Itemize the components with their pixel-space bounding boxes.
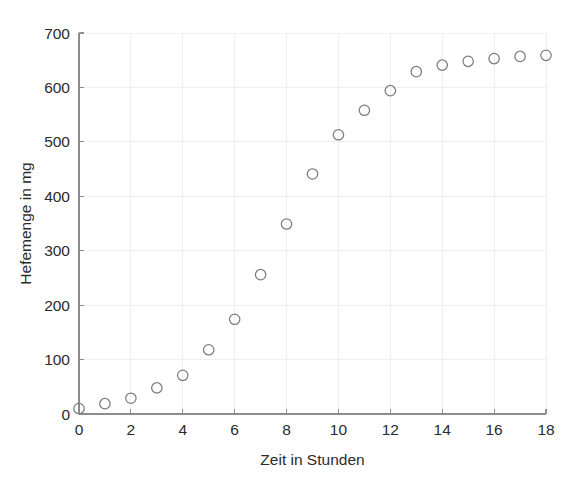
- data-point-marker: [463, 56, 473, 66]
- chart-canvas: 0100200300400500600700024681012141618Zei…: [0, 0, 588, 478]
- x-tick-label: 10: [330, 421, 348, 438]
- data-point-marker: [204, 345, 214, 355]
- y-tick-label: 500: [44, 133, 70, 150]
- data-point-marker: [100, 398, 110, 408]
- y-tick-label: 300: [44, 242, 70, 259]
- x-tick-label: 2: [127, 421, 136, 438]
- data-point-marker: [255, 269, 265, 279]
- y-tick-label: 200: [44, 297, 70, 314]
- y-tick-label: 100: [44, 351, 70, 368]
- yeast-growth-scatter-chart: 0100200300400500600700024681012141618Zei…: [0, 0, 588, 478]
- y-axis-title: Hefemenge in mg: [17, 162, 34, 284]
- data-point-marker: [152, 383, 162, 393]
- x-tick-label: 18: [537, 421, 554, 438]
- data-point-marker: [359, 105, 369, 115]
- data-point-marker: [515, 51, 525, 61]
- x-tick-label: 0: [75, 421, 84, 438]
- x-tick-label: 8: [282, 421, 291, 438]
- data-point-marker: [411, 66, 421, 76]
- data-point-marker: [307, 169, 317, 179]
- y-tick-label: 400: [44, 188, 70, 205]
- y-tick-label: 600: [44, 79, 70, 96]
- x-tick-label: 16: [485, 421, 502, 438]
- y-tick-label: 0: [61, 406, 70, 423]
- x-tick-label: 4: [178, 421, 187, 438]
- x-tick-label: 14: [434, 421, 452, 438]
- x-tick-label: 6: [230, 421, 239, 438]
- y-tick-label: 700: [44, 25, 70, 42]
- x-tick-label: 12: [382, 421, 399, 438]
- x-axis-title: Zeit in Stunden: [260, 451, 364, 468]
